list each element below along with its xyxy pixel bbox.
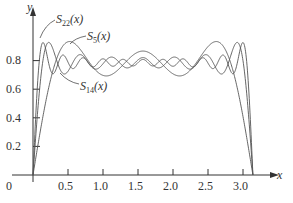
x-tick-label: 1.5 (128, 180, 143, 192)
x-tick-label: 2.0 (163, 180, 178, 192)
y-tick-label: 0.2 (6, 140, 21, 152)
legend-s5: S5(x) (87, 30, 110, 45)
y-tick-label: 0.4 (6, 112, 21, 124)
x-tick-label: 0.5 (58, 180, 73, 192)
leader-line-s14 (60, 73, 79, 84)
leader-line-s5 (70, 36, 86, 44)
y-tick-label: 0.6 (6, 83, 21, 95)
leader-line-s22 (40, 20, 55, 38)
y-tick-label: 0.8 (6, 54, 21, 66)
chart: y x 0 0.8 0.6 0.4 0.2 0.5 1.0 1.5 2.0 2.… (0, 0, 293, 203)
x-tick-label: 2.5 (198, 180, 213, 192)
x-axis-label: x (277, 169, 282, 181)
plot-area (0, 0, 293, 203)
legend-s22: S22(x) (56, 13, 83, 28)
curve-s14x (33, 42, 253, 175)
y-axis-label: y (27, 1, 32, 13)
x-tick-label: 3.0 (233, 180, 248, 192)
curve-s5x (33, 42, 253, 175)
x-tick-label: 1.0 (93, 180, 108, 192)
origin-label: 0 (6, 180, 12, 192)
legend-s14: S14(x) (80, 80, 107, 95)
curve-s22x (33, 43, 253, 175)
